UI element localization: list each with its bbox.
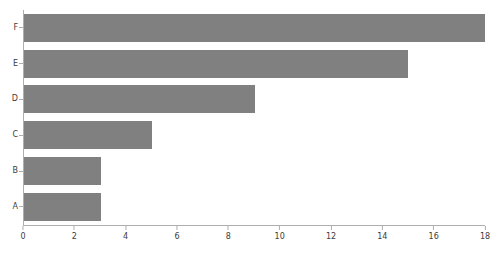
y-tick-mark bbox=[19, 135, 23, 136]
bar-chart: F E D C B A 024681012141618 bbox=[0, 0, 500, 253]
x-tick-mark bbox=[485, 226, 486, 230]
x-tick-mark bbox=[125, 226, 126, 230]
x-tick: 8 bbox=[226, 226, 231, 241]
bar-row bbox=[24, 46, 485, 82]
x-tick-label: 16 bbox=[429, 233, 439, 241]
bar-d bbox=[24, 85, 255, 113]
y-tick-mark bbox=[19, 206, 23, 207]
y-tick-label: F bbox=[13, 24, 18, 32]
x-tick-label: 6 bbox=[174, 233, 179, 241]
y-axis-ticks bbox=[19, 10, 23, 225]
x-tick-mark bbox=[177, 226, 178, 230]
bar-row bbox=[24, 82, 485, 118]
bar-c bbox=[24, 121, 152, 149]
x-tick: 2 bbox=[72, 226, 77, 241]
x-tick-mark bbox=[23, 226, 24, 230]
x-tick: 16 bbox=[429, 226, 439, 241]
x-tick-mark bbox=[279, 226, 280, 230]
bar-e bbox=[24, 50, 408, 78]
x-tick-label: 8 bbox=[226, 233, 231, 241]
y-tick-label: A bbox=[13, 203, 18, 211]
y-tick-label: D bbox=[12, 95, 18, 103]
x-tick-label: 10 bbox=[275, 233, 285, 241]
x-tick-mark bbox=[433, 226, 434, 230]
x-tick: 0 bbox=[20, 226, 25, 241]
bar-b bbox=[24, 157, 101, 185]
x-tick: 10 bbox=[275, 226, 285, 241]
x-tick-label: 4 bbox=[123, 233, 128, 241]
x-tick: 6 bbox=[174, 226, 179, 241]
x-tick: 4 bbox=[123, 226, 128, 241]
x-tick: 18 bbox=[480, 226, 490, 241]
y-axis-labels: F E D C B A bbox=[0, 10, 18, 225]
y-tick-label: B bbox=[13, 167, 19, 175]
x-tick-mark bbox=[331, 226, 332, 230]
x-tick-label: 14 bbox=[377, 233, 387, 241]
y-tick-mark bbox=[19, 27, 23, 28]
x-tick: 14 bbox=[377, 226, 387, 241]
y-tick-mark bbox=[19, 171, 23, 172]
x-tick: 12 bbox=[326, 226, 336, 241]
x-tick-label: 0 bbox=[20, 233, 25, 241]
x-tick-label: 12 bbox=[326, 233, 336, 241]
bar-row bbox=[24, 153, 485, 189]
y-tick-mark bbox=[19, 63, 23, 64]
x-tick-label: 18 bbox=[480, 233, 490, 241]
y-tick-label: E bbox=[13, 60, 18, 68]
bar-a bbox=[24, 193, 101, 221]
bar-row bbox=[24, 10, 485, 46]
bar-series bbox=[24, 10, 485, 225]
y-tick-mark bbox=[19, 99, 23, 100]
y-tick-label: C bbox=[12, 131, 18, 139]
bar-f bbox=[24, 14, 485, 42]
bar-row bbox=[24, 117, 485, 153]
x-axis-ticks: 024681012141618 bbox=[23, 226, 485, 248]
x-tick-mark bbox=[228, 226, 229, 230]
x-tick-mark bbox=[74, 226, 75, 230]
bar-row bbox=[24, 189, 485, 225]
x-tick-mark bbox=[382, 226, 383, 230]
x-tick-label: 2 bbox=[72, 233, 77, 241]
